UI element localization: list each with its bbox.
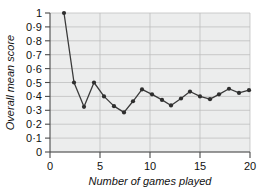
- y-tick-label: 0: [36, 146, 42, 158]
- data-point: [140, 87, 144, 91]
- data-point: [227, 87, 231, 91]
- data-point: [102, 94, 106, 98]
- y-tick-label: 0·1: [26, 132, 42, 144]
- data-point: [247, 88, 251, 92]
- x-tick-label: 10: [144, 160, 156, 172]
- x-tick-label: 5: [97, 160, 103, 172]
- y-tick-label: 0·9: [26, 21, 42, 33]
- x-axis-tick-labels: 0 5 10 15 20: [47, 160, 256, 172]
- y-tick-label: 0·7: [26, 49, 42, 61]
- y-axis: [45, 13, 50, 152]
- data-point: [160, 98, 164, 102]
- data-point: [122, 110, 126, 114]
- y-tick-label: 0·4: [26, 90, 42, 102]
- data-point: [150, 92, 154, 96]
- data-point: [198, 94, 202, 98]
- y-tick-label: 0·5: [26, 77, 42, 89]
- data-point: [179, 96, 183, 100]
- data-point: [217, 92, 221, 96]
- data-point: [188, 89, 192, 93]
- x-axis: [50, 152, 250, 158]
- chart-figure: 1 0·9 0·8 0·7 0·6 0·5 0·4 0·3 0·2 0·1 0 …: [0, 0, 260, 189]
- x-axis-title: Number of games played: [89, 175, 213, 187]
- y-tick-label: 0·2: [26, 118, 42, 130]
- data-point: [169, 103, 173, 107]
- line-chart: 1 0·9 0·8 0·7 0·6 0·5 0·4 0·3 0·2 0·1 0 …: [0, 0, 260, 189]
- data-point: [72, 80, 76, 84]
- y-tick-label: 0·3: [26, 104, 42, 116]
- data-point: [208, 97, 212, 101]
- data-point: [62, 11, 66, 15]
- x-tick-label: 0: [47, 160, 53, 172]
- y-axis-tick-labels: 1 0·9 0·8 0·7 0·6 0·5 0·4 0·3 0·2 0·1 0: [26, 7, 42, 158]
- data-point: [82, 105, 86, 109]
- data-point: [112, 104, 116, 108]
- y-tick-label: 0·6: [26, 63, 42, 75]
- data-point: [237, 91, 241, 95]
- y-tick-label: 1: [36, 7, 42, 19]
- data-point: [92, 80, 96, 84]
- data-point: [131, 99, 135, 103]
- x-tick-label: 15: [194, 160, 206, 172]
- y-tick-label: 0·8: [26, 35, 42, 47]
- x-tick-label: 20: [244, 160, 256, 172]
- y-axis-title: Overall mean score: [4, 35, 16, 130]
